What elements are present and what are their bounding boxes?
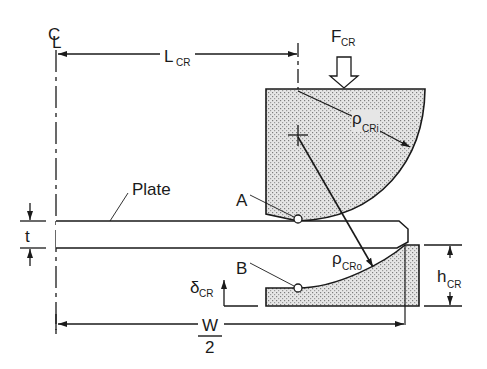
thickness-label: t xyxy=(25,227,30,246)
point-b-marker xyxy=(294,284,302,292)
lower-die xyxy=(266,245,419,306)
point-b-label: B xyxy=(236,259,247,278)
length-label: L xyxy=(164,47,173,66)
height-label: h xyxy=(437,267,446,286)
outer-radius-label: ρ xyxy=(332,249,342,268)
upper-die xyxy=(266,89,425,221)
force-label-sub: CR xyxy=(341,37,355,48)
plate-label: Plate xyxy=(132,180,171,199)
half-width-numerator: W xyxy=(202,316,218,335)
half-width-denominator: 2 xyxy=(205,338,214,357)
plate xyxy=(56,221,408,248)
half-width-dimension xyxy=(56,314,404,336)
length-label-sub: CR xyxy=(176,57,190,68)
outer-radius-label-sub: CRo xyxy=(342,261,362,272)
inner-radius-label: ρ xyxy=(352,109,362,128)
height-label-sub: CR xyxy=(447,279,461,290)
centerline-label-sub: L xyxy=(52,33,61,52)
inner-radius-label-sub: CRi xyxy=(362,123,379,134)
point-a-marker xyxy=(294,215,302,223)
thickness-dimension xyxy=(20,203,46,266)
force-label: F xyxy=(331,27,341,46)
force-arrow-icon xyxy=(330,57,358,88)
displacement-arrow xyxy=(224,280,258,306)
displacement-label-sub: CR xyxy=(199,288,213,299)
crimp-die-diagram: C L L CR F CR ρ CRi ρ CRo Plate A B t δ … xyxy=(0,0,487,369)
point-a-label: A xyxy=(236,191,248,210)
